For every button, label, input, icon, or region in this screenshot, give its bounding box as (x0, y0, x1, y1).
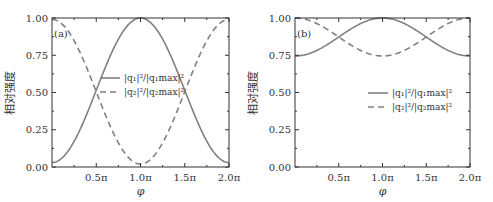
y-tick-label: 0.75 (269, 50, 291, 61)
y-tick-label: 0.50 (26, 87, 48, 98)
y-tick-label: 0.00 (269, 162, 291, 173)
y-axis-title: 相对强度 (3, 71, 17, 115)
curve-q2 (295, 18, 470, 56)
x-tick-label: 1.5π (415, 172, 438, 183)
y-tick-label: 0.75 (26, 50, 48, 61)
panel-tag: (b) (297, 28, 311, 39)
x-axis-title: φ (137, 185, 145, 198)
legend-label-q1: |q₁|²/|q₁max|² (392, 88, 452, 99)
y-axis-title: 相对强度 (246, 71, 260, 115)
x-tick-label: 0.5π (85, 172, 108, 183)
panel-b: 0.000.250.500.751.000.5π1.0π1.5π2.0πφ相对强… (245, 0, 493, 202)
y-tick-label: 0.50 (269, 87, 291, 98)
y-tick-label: 1.00 (26, 13, 48, 24)
y-tick-label: 0.00 (26, 162, 48, 173)
x-tick-label: 0.5π (328, 172, 351, 183)
curve-q1 (295, 18, 470, 56)
y-tick-label: 0.25 (269, 124, 291, 135)
panel-tag: (a) (54, 28, 68, 39)
x-tick-label: 2.0π (459, 172, 482, 183)
chart-b: 0.000.250.500.751.000.5π1.0π1.5π2.0πφ相对强… (245, 0, 493, 202)
panel-a: 0.000.250.500.751.000.5π1.0π1.5π2.0πφ相对强… (0, 0, 245, 202)
x-tick-label: 1.0π (129, 172, 152, 183)
legend-label-q1: |q₁|²/|q₁max|² (124, 73, 184, 84)
legend-label-q2: |q₂|²/|q₂max|² (392, 102, 452, 113)
x-tick-label: 2.0π (218, 172, 241, 183)
x-axis-title: φ (379, 185, 387, 198)
chart-a: 0.000.250.500.751.000.5π1.0π1.5π2.0πφ相对强… (0, 0, 245, 202)
x-tick-label: 1.0π (371, 172, 394, 183)
y-tick-label: 1.00 (269, 13, 291, 24)
legend-label-q2: |q₂|²/|q₂max|² (124, 87, 184, 98)
x-tick-label: 1.5π (174, 172, 197, 183)
y-tick-label: 0.25 (26, 124, 48, 135)
